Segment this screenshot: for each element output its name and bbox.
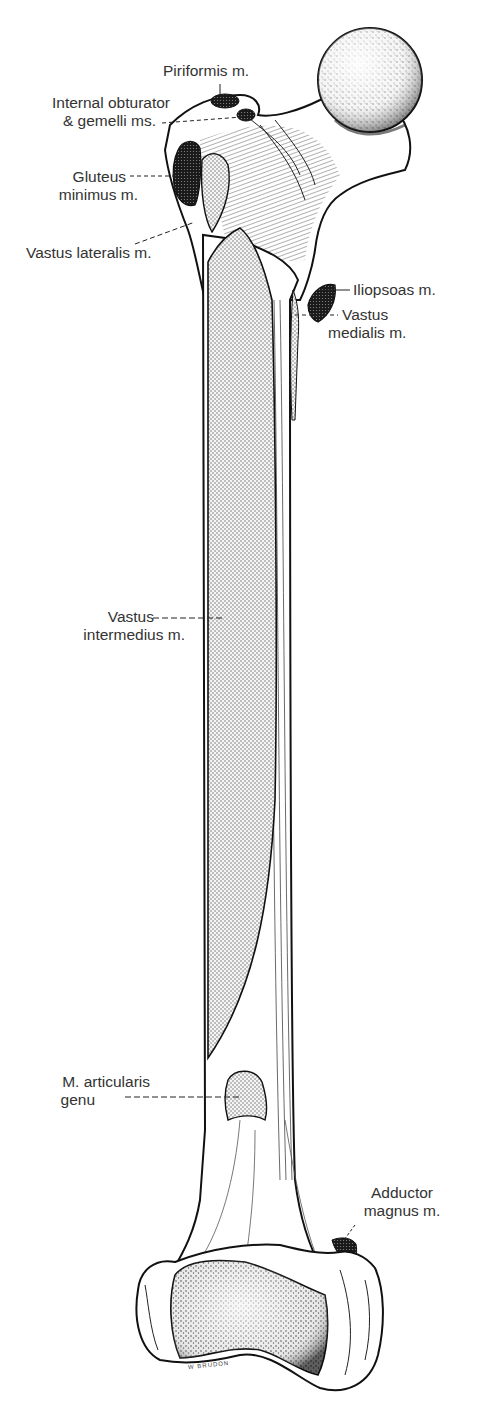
label-text: Vastus bbox=[40, 608, 190, 626]
label-text: Internal obturator bbox=[20, 94, 170, 112]
label-adductor-magnus: Adductor magnus m. bbox=[352, 1184, 452, 1220]
label-text: M. articularis bbox=[20, 1073, 150, 1091]
label-text: Adductor bbox=[352, 1184, 452, 1202]
label-vastus-intermedius: Vastus intermedius m. bbox=[40, 608, 190, 644]
label-text: intermedius m. bbox=[40, 626, 190, 644]
label-articularis-genu: M. articularis genu bbox=[20, 1073, 150, 1109]
label-gluteus-minimus: Gluteus minimus m. bbox=[20, 168, 138, 204]
femur-anterior-illustration: Piriformis m. Internal obturator & gemel… bbox=[0, 0, 491, 1419]
label-text: Piriformis m. bbox=[163, 62, 249, 80]
label-text: genu bbox=[20, 1091, 150, 1109]
label-text: Gluteus bbox=[20, 168, 138, 186]
gluteus-minimus-insertion bbox=[173, 141, 201, 205]
label-text: magnus m. bbox=[352, 1202, 452, 1220]
piriformis-insertion bbox=[211, 94, 239, 108]
label-vastus-medialis: Vastus medialis m. bbox=[338, 306, 406, 342]
label-text: & gemelli ms. bbox=[20, 112, 170, 130]
internal-obturator-insertion bbox=[237, 109, 255, 121]
label-text: medialis m. bbox=[328, 324, 406, 342]
vastus-medialis-origin bbox=[291, 290, 299, 420]
label-text: minimus m. bbox=[20, 186, 138, 204]
label-text: Iliopsoas m. bbox=[353, 281, 436, 299]
label-internal-obturator: Internal obturator & gemelli ms. bbox=[20, 94, 170, 130]
articularis-genu-origin bbox=[225, 1071, 266, 1120]
label-piriformis: Piriformis m. bbox=[163, 62, 249, 80]
label-vastus-lateralis: Vastus lateralis m. bbox=[26, 244, 151, 262]
label-text: Vastus lateralis m. bbox=[26, 244, 151, 262]
label-iliopsoas: Iliopsoas m. bbox=[353, 281, 436, 299]
label-text: Vastus bbox=[338, 306, 406, 324]
